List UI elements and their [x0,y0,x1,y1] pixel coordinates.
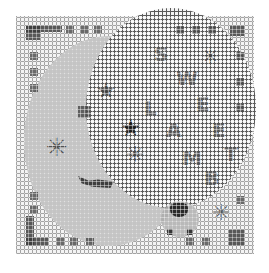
canvas-mesh [16,16,254,254]
needlepoint-canvas: S W E E T L A M B ★ ★ ✳ ✳ ✳ ✳ [16,16,254,254]
